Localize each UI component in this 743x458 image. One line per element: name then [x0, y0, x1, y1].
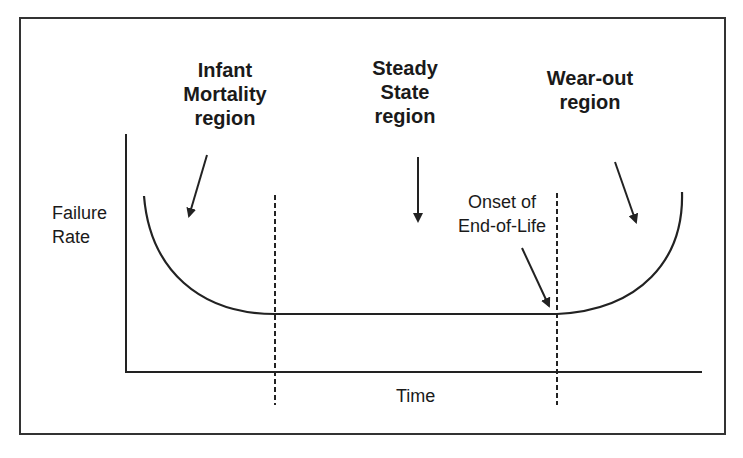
y-axis-label: Failure Rate — [52, 201, 122, 249]
bathtub-curve — [144, 192, 682, 314]
label-line: State — [365, 80, 445, 104]
label-line: Mortality — [170, 82, 280, 106]
label-line: region — [540, 90, 640, 114]
label-line: Infant — [170, 58, 280, 82]
label-steady-state: Steady State region — [365, 56, 445, 128]
label-line: Rate — [52, 225, 122, 249]
label-wear-out: Wear-out region — [540, 66, 640, 114]
label-line: Failure — [52, 201, 122, 225]
arrow-wearout — [615, 162, 636, 222]
label-line: Onset of — [447, 190, 557, 214]
arrow-infant — [189, 155, 207, 216]
arrow-end-of-life — [522, 248, 549, 306]
label-line: Wear-out — [540, 66, 640, 90]
label-line: End-of-Life — [447, 214, 557, 238]
label-line: region — [365, 104, 445, 128]
label-onset-end-of-life: Onset of End-of-Life — [447, 190, 557, 238]
label-infant-mortality: Infant Mortality region — [170, 58, 280, 130]
label-line: region — [170, 106, 280, 130]
x-axis-label: Time — [396, 384, 456, 408]
label-line: Steady — [365, 56, 445, 80]
